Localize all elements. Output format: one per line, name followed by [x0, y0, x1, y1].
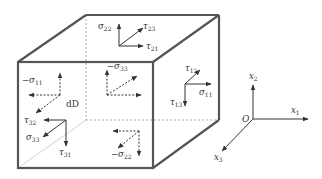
- label-sigma22: σ22: [98, 22, 111, 32]
- arrow-neg-sigma33-diag: [107, 76, 137, 95]
- back-face-arrows: [107, 70, 141, 95]
- edge-bottom-right-diagonal: [153, 120, 219, 168]
- label-axis-x2: x2: [249, 72, 258, 82]
- label-sigma11: σ11: [199, 88, 212, 98]
- label-tau21: τ21: [146, 42, 158, 52]
- label-axis-x3: x3: [214, 153, 223, 163]
- label-element-dD: dD: [66, 100, 79, 109]
- label-sigma33: σ33: [26, 133, 39, 143]
- arrow-neg-sigma22-diag: [118, 131, 139, 148]
- label-tau13: τ13: [170, 98, 182, 108]
- arrow-sigma33: [43, 120, 66, 137]
- hidden-edge-diagonal: [18, 120, 86, 168]
- edge-top-left-diagonal: [18, 15, 86, 62]
- arrow-tau23: [119, 28, 143, 46]
- label-origin: O: [242, 115, 249, 124]
- edge-top-right-diagonal: [153, 15, 219, 62]
- label-neg-sigma33: −σ33: [107, 62, 128, 72]
- stress-element-diagram: σ22 τ23 τ21 τ12 σ11 τ13 −σ11 −σ33 dD τ32…: [0, 0, 322, 179]
- arrow-neg-sigma11-diag: [36, 95, 60, 113]
- label-tau23: τ23: [143, 22, 155, 32]
- label-neg-sigma11: −σ11: [22, 76, 43, 86]
- label-neg-sigma22: −σ22: [111, 150, 132, 160]
- coordinate-axes: [222, 85, 308, 151]
- label-tau12: τ12: [185, 64, 197, 74]
- label-tau32: τ32: [24, 116, 36, 126]
- label-axis-x1: x1: [291, 106, 300, 116]
- top-face-arrows: [119, 24, 143, 46]
- label-tau31: τ31: [59, 148, 71, 158]
- diagram-canvas: [0, 0, 322, 179]
